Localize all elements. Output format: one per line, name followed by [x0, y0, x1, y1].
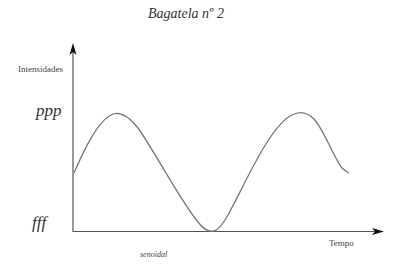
plot-area: [0, 0, 406, 269]
sine-curve: [74, 113, 349, 232]
